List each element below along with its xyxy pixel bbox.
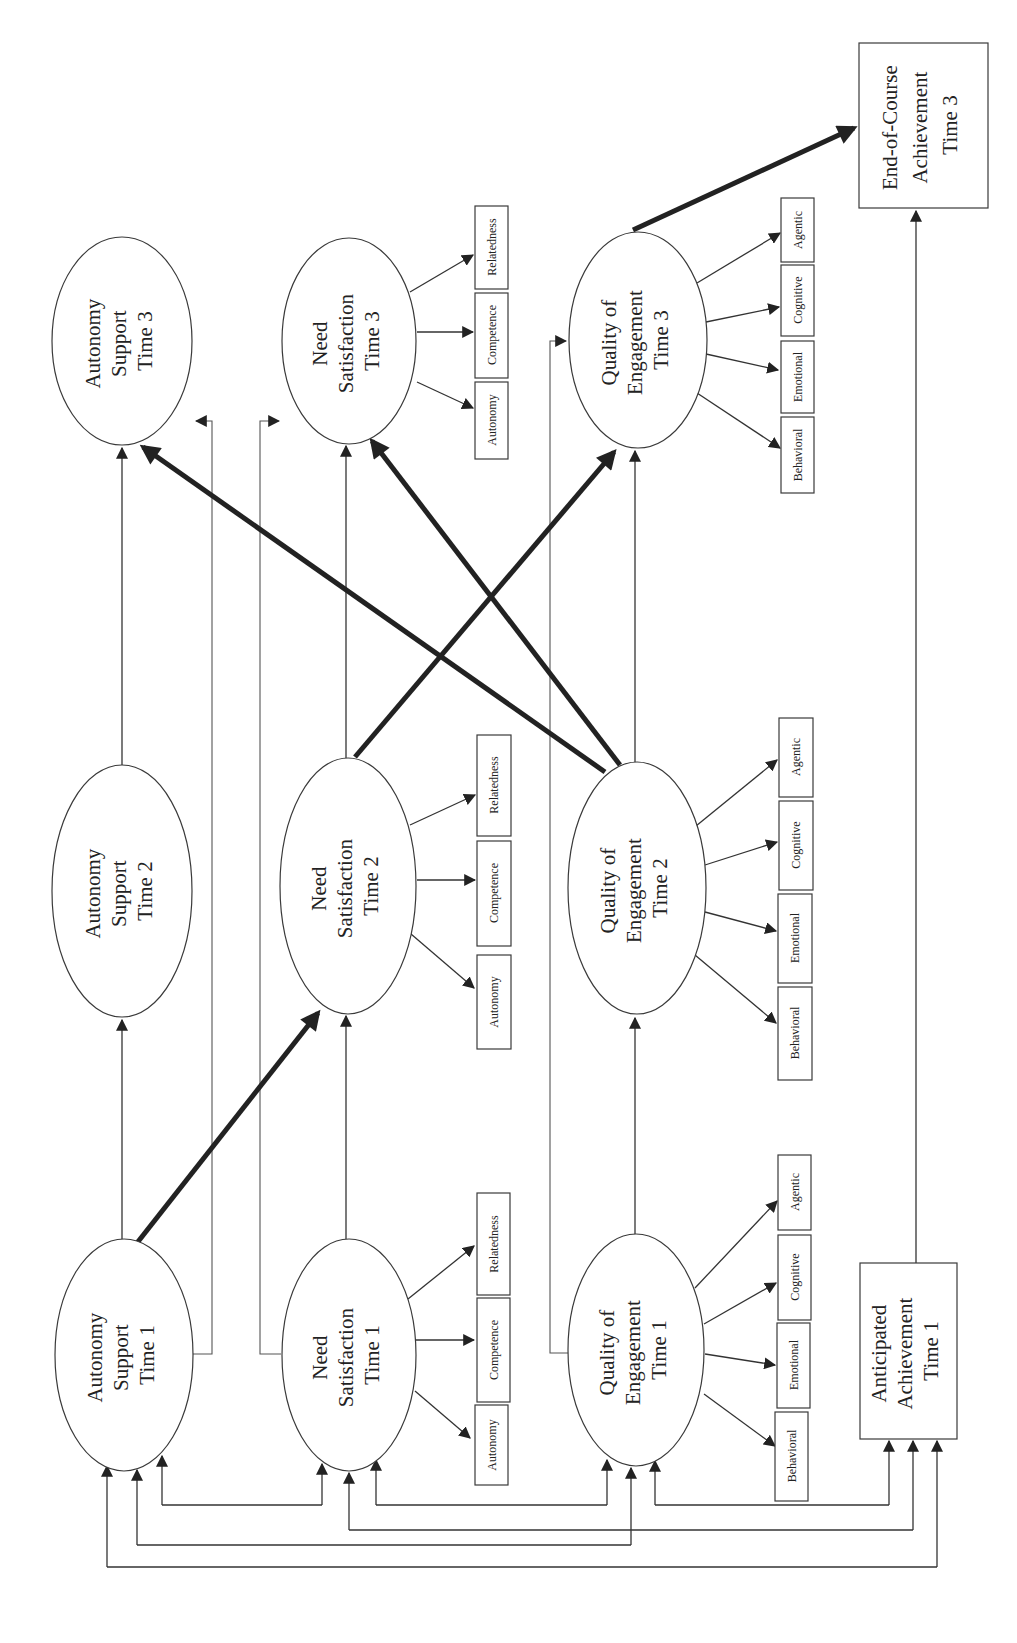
svg-text:Agentic: Agentic	[791, 211, 805, 249]
indicator-agentic: Agentic	[778, 1155, 811, 1230]
node-label-line: Autonomy	[83, 1312, 107, 1402]
node-label-line: Support	[107, 860, 131, 927]
node-label-line: End-of-Course	[878, 65, 902, 190]
svg-text:Cognitive: Cognitive	[789, 821, 803, 868]
ns1-indicators: Autonomy Competence Relatedness	[475, 1193, 510, 1485]
indicator-autonomy: Autonomy	[475, 1405, 508, 1485]
qe1-indicators: Behavioral Emotional Cognitive Agentic	[775, 1155, 811, 1501]
node-label-line: Quality of	[596, 848, 620, 934]
node-label-line: Autonomy	[81, 848, 105, 938]
node-quality-of-engagement-time-3: Quality of Engagement Time 3	[569, 232, 707, 448]
indicator-competence: Competence	[475, 293, 508, 378]
indicator-cognitive: Cognitive	[778, 1235, 811, 1320]
indicator-autonomy: Autonomy	[477, 955, 511, 1049]
node-label-line: Support	[109, 1324, 133, 1391]
node-label-line: Engagement	[623, 290, 647, 395]
qe2-indicators: Behavioral Emotional Cognitive Agentic	[778, 718, 813, 1080]
indicator-cognitive: Cognitive	[779, 801, 813, 890]
node-label-line: Satisfaction	[333, 839, 357, 939]
indicator-agentic: Agentic	[781, 198, 814, 262]
indicator-relatedness: Relatedness	[477, 735, 511, 836]
svg-text:Behavioral: Behavioral	[791, 428, 805, 481]
node-label-line: Quality of	[595, 1310, 619, 1396]
indicator-agentic: Agentic	[779, 718, 813, 797]
node-label-line: Time 3	[133, 311, 157, 370]
indicator-emotional: Emotional	[781, 341, 814, 413]
node-label-line: Quality of	[597, 300, 621, 386]
svg-text:Autonomy: Autonomy	[487, 976, 501, 1027]
node-label-line: Time 3	[649, 310, 673, 369]
node-label-line: Engagement	[622, 838, 646, 943]
node-label-line: Achievement	[893, 1297, 917, 1409]
indicator-competence: Competence	[477, 1298, 510, 1402]
node-label-line: Satisfaction	[334, 294, 358, 394]
svg-text:Competence: Competence	[485, 305, 499, 365]
svg-text:Cognitive: Cognitive	[791, 276, 805, 323]
ns2-indicators: Autonomy Competence Relatedness	[477, 735, 511, 1049]
node-autonomy-support-time-3: Autonomy Support Time 3	[52, 237, 192, 445]
indicator-autonomy: Autonomy	[475, 382, 508, 459]
path-diagram: Autonomy Support Time 3 Autonomy Support…	[0, 0, 1017, 1643]
svg-text:Behavioral: Behavioral	[788, 1006, 802, 1059]
svg-text:Emotional: Emotional	[787, 1339, 801, 1390]
node-label-line: Achievement	[908, 71, 932, 183]
node-label-line: Time 1	[919, 1321, 943, 1380]
node-need-satisfaction-time-3: Need Satisfaction Time 3	[282, 238, 416, 444]
node-label-line: Time 2	[133, 861, 157, 920]
node-label-line: Need	[308, 1335, 332, 1380]
node-label-line: Support	[107, 310, 131, 377]
indicator-emotional: Emotional	[778, 894, 812, 983]
node-need-satisfaction-time-1: Need Satisfaction Time 1	[282, 1239, 416, 1471]
node-label-line: Time 2	[359, 856, 383, 915]
svg-text:Cognitive: Cognitive	[788, 1253, 802, 1300]
node-quality-of-engagement-time-2: Quality of Engagement Time 2	[568, 762, 706, 1014]
svg-text:Relatedness: Relatedness	[487, 756, 501, 814]
node-label-line: Autonomy	[81, 298, 105, 388]
node-label-line: Need	[308, 321, 332, 366]
svg-text:Agentic: Agentic	[789, 738, 803, 776]
indicator-behavioral: Behavioral	[778, 987, 812, 1080]
indicator-relatedness: Relatedness	[477, 1193, 510, 1295]
indicator-behavioral: Behavioral	[775, 1412, 808, 1501]
indicator-competence: Competence	[477, 841, 511, 946]
svg-text:Emotional: Emotional	[788, 912, 802, 963]
qe3-indicators: Behavioral Emotional Cognitive Agentic	[781, 198, 814, 493]
svg-text:Autonomy: Autonomy	[485, 394, 499, 445]
node-label-line: Time 2	[648, 858, 672, 917]
node-end-of-course-achievement-time-3: End-of-Course Achievement Time 3	[859, 43, 988, 208]
svg-text:Competence: Competence	[487, 1320, 501, 1380]
node-quality-of-engagement-time-1: Quality of Engagement Time 1	[568, 1234, 704, 1466]
svg-text:Autonomy: Autonomy	[485, 1419, 499, 1470]
node-autonomy-support-time-2: Autonomy Support Time 2	[52, 765, 192, 1017]
node-label-line: Time 3	[938, 95, 962, 154]
node-label-line: Anticipated	[867, 1304, 891, 1402]
svg-text:Relatedness: Relatedness	[487, 1215, 501, 1273]
svg-text:Agentic: Agentic	[788, 1173, 802, 1211]
node-label-line: Time 1	[360, 1325, 384, 1384]
node-label-line: Satisfaction	[334, 1308, 358, 1408]
node-label-line: Engagement	[621, 1300, 645, 1405]
node-autonomy-support-time-1: Autonomy Support Time 1	[55, 1239, 193, 1471]
svg-text:Behavioral: Behavioral	[785, 1429, 799, 1482]
node-anticipated-achievement-time-1: Anticipated Achievement Time 1	[860, 1263, 957, 1439]
node-label-line: Time 1	[135, 1325, 159, 1384]
svg-text:Relatedness: Relatedness	[485, 218, 499, 276]
indicator-cognitive: Cognitive	[781, 265, 814, 336]
svg-text:Competence: Competence	[487, 863, 501, 923]
svg-text:Emotional: Emotional	[791, 351, 805, 402]
node-label-line: Time 3	[360, 311, 384, 370]
ns3-indicators: Autonomy Competence Relatedness	[475, 206, 508, 459]
indicator-behavioral: Behavioral	[781, 417, 814, 493]
correlation-lines	[107, 1441, 937, 1567]
node-label-line: Time 1	[647, 1320, 671, 1379]
node-label-line: Need	[307, 866, 331, 911]
node-need-satisfaction-time-2: Need Satisfaction Time 2	[280, 758, 416, 1014]
indicator-emotional: Emotional	[777, 1323, 810, 1408]
indicator-relatedness: Relatedness	[475, 206, 508, 289]
